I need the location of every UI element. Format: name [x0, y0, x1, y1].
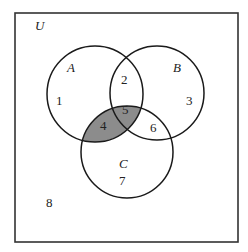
region-6-label: 6 [150, 120, 157, 135]
set-b-label: B [173, 60, 181, 75]
set-c-label: C [119, 156, 128, 171]
region-1-label: 1 [56, 93, 63, 108]
region-7-label: 7 [119, 173, 126, 188]
region-5-label: 5 [122, 102, 129, 117]
set-a-label: A [66, 60, 75, 75]
venn-diagram: U A B C 1 2 3 4 5 6 7 8 [0, 0, 248, 252]
universe-label: U [35, 18, 46, 33]
region-4-label: 4 [100, 118, 107, 133]
region-3-label: 3 [186, 93, 193, 108]
region-2-label: 2 [121, 72, 128, 87]
region-8-label: 8 [46, 195, 53, 210]
